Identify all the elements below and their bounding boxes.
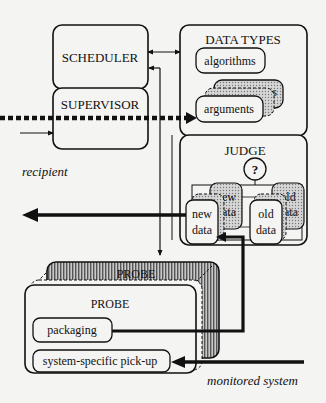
scheduler-block: SCHEDULER xyxy=(53,25,148,89)
probe-front-title: PROBE xyxy=(91,297,130,311)
svg-text:system-specific pick-up: system-specific pick-up xyxy=(43,354,157,368)
svg-text:algorithms: algorithms xyxy=(204,54,256,68)
question-mark: ? xyxy=(252,162,259,177)
monitored-system-label: monitored system xyxy=(207,373,298,388)
pickup-item: system-specific pick-up xyxy=(33,350,170,372)
probe-back-title: PROBE xyxy=(117,267,156,281)
algorithms-item: algorithms xyxy=(196,48,265,73)
arguments-front-label: arguments xyxy=(204,102,254,116)
data-types-block: DATA TYPES algorithms arguments argument… xyxy=(180,25,307,136)
svg-text:packaging: packaging xyxy=(47,323,96,337)
probe-front-block: PROBE packaging system-specific pick-up xyxy=(25,280,202,373)
judge-title: JUDGE xyxy=(224,143,265,158)
svg-text:data: data xyxy=(256,223,277,237)
scheduler-label: SCHEDULER xyxy=(62,50,139,65)
judge-block: JUDGE ? new data old data new data old d… xyxy=(180,135,307,245)
data-types-title: DATA TYPES xyxy=(205,32,281,47)
architecture-diagram: SCHEDULER SUPERVISOR DATA TYPES algorith… xyxy=(0,0,326,403)
packaging-item: packaging xyxy=(33,318,112,342)
supervisor-label: SUPERVISOR xyxy=(61,97,140,112)
svg-text:new: new xyxy=(192,207,212,221)
svg-text:data: data xyxy=(192,223,213,237)
svg-text:old: old xyxy=(258,207,273,221)
recipient-label: recipient xyxy=(22,164,68,179)
